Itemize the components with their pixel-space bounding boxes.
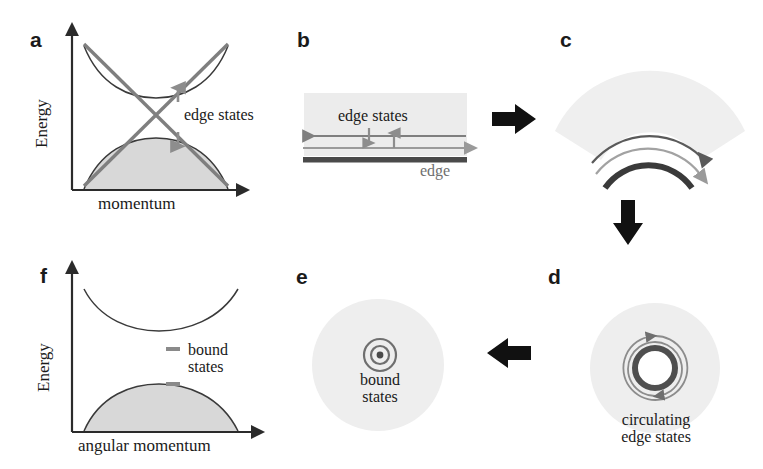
panel-f-annotation-line2: states [188, 359, 228, 376]
figure-canvas: a Energy momentum edge states b [0, 0, 763, 469]
panel-f-x-axis-label: angular momentum [78, 436, 211, 456]
panel-f-valence-band [84, 384, 238, 431]
panel-f-annotation-line1: bound [188, 342, 228, 359]
panel-f-conduction-band [84, 289, 238, 331]
panel-f-annotation: bound states [188, 342, 228, 376]
panel-f-y-axis-label: Energy [34, 343, 54, 392]
panel-f-plot [0, 0, 763, 469]
